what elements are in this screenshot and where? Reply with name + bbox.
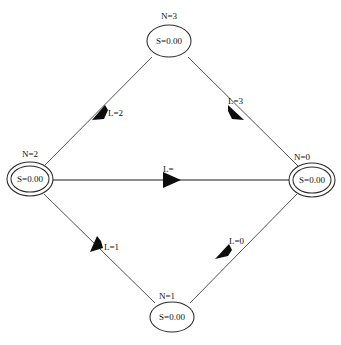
arrowhead-n0-n1 — [215, 244, 232, 259]
node-n0[interactable]: N=0 S=0.00 — [289, 152, 335, 197]
node-n1[interactable]: N=1 S=0.00 — [150, 291, 194, 332]
edge-n0-to-n1[interactable]: L=0 — [190, 194, 297, 303]
arrowhead-n2-n0 — [163, 172, 181, 188]
edge-n3-to-n0[interactable]: L=3 — [188, 57, 298, 166]
arrowhead-n3-n0 — [228, 105, 244, 120]
edge-n3-to-n2[interactable]: L=2 — [45, 57, 152, 165]
node-n0-inner-label: S=0.00 — [299, 175, 325, 185]
edge-label-n3-n2: L=2 — [108, 108, 123, 118]
edge-label-n2-n0: L= — [163, 164, 174, 174]
edge-line-n0-n1 — [190, 194, 297, 303]
node-n3-outer-label: N=3 — [161, 11, 178, 21]
diagram-canvas: L=2 L=3 L= L=1 L=0 N=3 — [0, 0, 341, 345]
footer-partial-text — [8, 338, 338, 345]
edge-label-n3-n0: L=3 — [228, 96, 244, 106]
node-n1-inner-label: S=0.00 — [159, 312, 185, 322]
node-n0-outer-label: N=0 — [294, 152, 311, 162]
node-n2-inner-label: S=0.00 — [17, 174, 43, 184]
node-n2-outer-label: N=2 — [22, 149, 38, 159]
node-n3[interactable]: N=3 S=0.00 — [147, 11, 191, 57]
state-graph: L=2 L=3 L= L=1 L=0 N=3 — [0, 0, 341, 345]
edge-n2-to-n0[interactable]: L= — [51, 164, 291, 188]
node-n2[interactable]: N=2 S=0.00 — [7, 149, 53, 196]
edge-label-n0-n1: L=0 — [229, 236, 245, 246]
node-n3-inner-label: S=0.00 — [156, 36, 182, 46]
edge-n1-to-n2[interactable]: L=1 — [44, 194, 155, 303]
arrowhead-n3-n2 — [92, 105, 108, 120]
edge-label-n1-n2: L=1 — [104, 242, 119, 252]
edge-line-n3-n2 — [45, 57, 152, 165]
node-n1-outer-label: N=1 — [159, 291, 175, 301]
edge-line-n3-n0 — [188, 57, 298, 166]
